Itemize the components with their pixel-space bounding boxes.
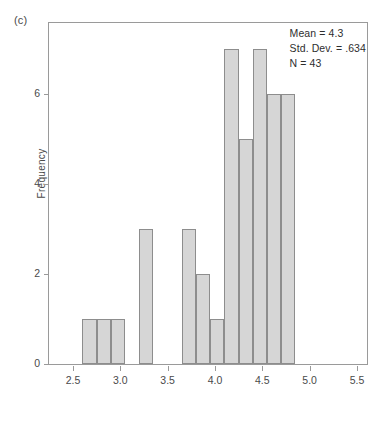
panel-label: (c) [14, 14, 27, 26]
x-tick-label: 2.5 [53, 374, 93, 386]
stats-n: N = 43 [290, 56, 366, 71]
histogram-bar [253, 49, 267, 364]
x-tick-label: 5.0 [290, 374, 330, 386]
x-tick-mark [357, 366, 358, 371]
histogram-bar [182, 229, 196, 364]
x-tick-label: 4.0 [195, 374, 235, 386]
x-tick-label: 4.5 [242, 374, 282, 386]
x-tick-mark [310, 366, 311, 371]
x-tick-label: 5.5 [337, 374, 377, 386]
histogram-bar [281, 94, 295, 364]
y-axis-label: Frequency [36, 129, 47, 219]
stats-mean: Mean = 4.3 [290, 26, 366, 41]
y-tick-label: 0 [18, 357, 40, 369]
histogram-bar [239, 139, 253, 364]
histogram-bar [139, 229, 153, 364]
x-tick-mark [73, 366, 74, 371]
histogram-bar [224, 49, 238, 364]
x-tick-mark [262, 366, 263, 371]
histogram-bar [196, 274, 210, 364]
x-tick-mark [120, 366, 121, 371]
x-tick-mark [168, 366, 169, 371]
y-tick-mark [44, 274, 49, 275]
bars-layer [48, 22, 368, 365]
histogram-bar [267, 94, 281, 364]
stats-annotation: Mean = 4.3 Std. Dev. = .634 N = 43 [290, 26, 366, 72]
histogram-bar [111, 319, 125, 364]
x-tick-mark [215, 366, 216, 371]
y-tick-label: 4 [18, 177, 40, 189]
y-tick-label: 2 [18, 267, 40, 279]
y-tick-label: 6 [18, 87, 40, 99]
histogram-bar [210, 319, 224, 364]
x-tick-label: 3.0 [100, 374, 140, 386]
histogram-bar [97, 319, 111, 364]
y-tick-mark [44, 364, 49, 365]
x-tick-label: 3.5 [148, 374, 188, 386]
y-tick-mark [44, 94, 49, 95]
histogram-figure: (c) Frequency 0246 2.53.03.54.04.55.05.5… [0, 0, 388, 421]
y-tick-mark [44, 184, 49, 185]
histogram-bar [82, 319, 96, 364]
stats-std-dev: Std. Dev. = .634 [290, 41, 366, 56]
